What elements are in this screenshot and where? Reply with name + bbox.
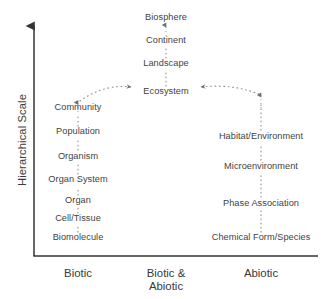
node-population: Population: [56, 127, 100, 136]
node-community: Community: [55, 103, 102, 112]
node-cell-tissue: Cell/Tissue: [55, 214, 101, 223]
x-axis-category-abiotic: Abiotic: [244, 267, 278, 280]
x-axis-category-biotic: Biotic: [64, 267, 92, 280]
node-organ: Organ: [65, 196, 91, 205]
arc-abiotic-to-ecosystem: [201, 86, 259, 94]
node-habitat-environment: Habitat/Environment: [219, 132, 303, 141]
node-chemical-form-species: Chemical Form/Species: [212, 233, 311, 242]
node-microenvironment: Microenvironment: [224, 162, 298, 171]
hierarchical-scale-diagram: Biosphere Continent Landscape Ecosystem …: [0, 0, 326, 299]
y-axis-title: Hierarchical Scale: [16, 94, 28, 186]
node-continent: Continent: [146, 36, 186, 45]
node-biosphere: Biosphere: [145, 13, 187, 22]
x-axis-category-biotic-abiotic: Biotic & Abiotic: [147, 267, 186, 292]
node-biomolecule: Biomolecule: [53, 233, 104, 242]
arc-community-to-ecosystem: [80, 86, 131, 101]
node-organ-system: Organ System: [48, 175, 107, 184]
node-ecosystem: Ecosystem: [143, 87, 188, 96]
node-organism: Organism: [58, 152, 98, 161]
node-landscape: Landscape: [143, 59, 188, 68]
node-phase-association: Phase Association: [223, 199, 299, 208]
